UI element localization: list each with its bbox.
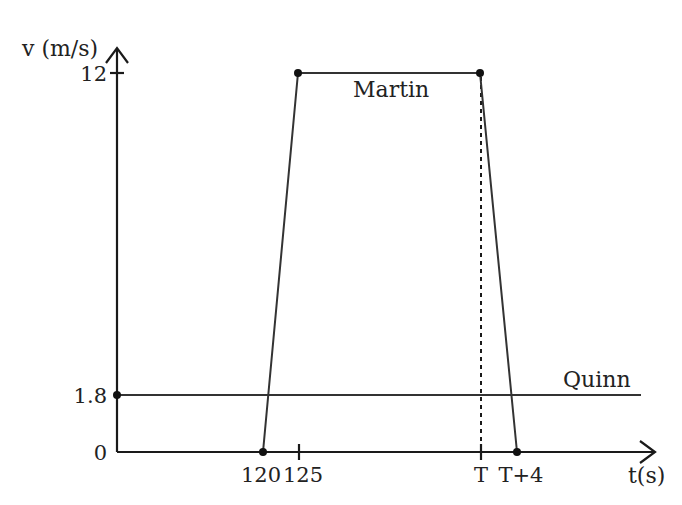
x-tick-label-125: 125: [283, 463, 323, 487]
quinn-start-point: [113, 391, 121, 399]
martin-point-T: [476, 69, 484, 77]
x-axis-label: t(s): [628, 463, 665, 488]
x-tick-label-120: 120: [241, 463, 281, 487]
x-tick-label-T: T: [474, 463, 488, 487]
martin-label: Martin: [353, 77, 429, 102]
diagram-canvas: v (m/s) t(s) 12 1.8 0 120 125 T T+4 Quin…: [0, 0, 682, 505]
velocity-time-diagram: v (m/s) t(s) 12 1.8 0 120 125 T T+4 Quin…: [0, 0, 682, 505]
x-tick-label-T-plus-4: T+4: [499, 463, 544, 487]
martin-point-120: [259, 448, 267, 456]
y-tick-label-12: 12: [80, 62, 107, 86]
quinn-label: Quinn: [563, 367, 631, 392]
martin-point-T-plus-4: [513, 448, 521, 456]
y-axis-label: v (m/s): [21, 36, 98, 61]
y-tick-label-0: 0: [94, 441, 107, 465]
y-tick-label-1.8: 1.8: [74, 384, 107, 408]
martin-point-125: [294, 69, 302, 77]
